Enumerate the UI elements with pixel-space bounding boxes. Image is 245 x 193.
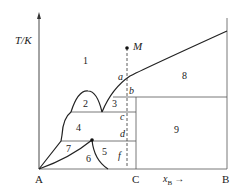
label-f: f: [118, 151, 121, 161]
region-6: 6: [86, 154, 91, 164]
region-8: 8: [182, 71, 187, 81]
region-1: 1: [83, 56, 88, 66]
liquidus-curve-left: [39, 112, 71, 169]
label-c-compound: C: [132, 174, 139, 185]
y-axis-label: T/K: [15, 35, 32, 46]
x-axis-label: xB→: [163, 174, 184, 187]
region-7: 7: [66, 144, 71, 154]
point-m-dot: [125, 46, 129, 50]
label-a-end: A: [35, 174, 43, 185]
region-2: 2: [83, 99, 88, 109]
region-9: 9: [174, 125, 179, 135]
region-5: 5: [102, 147, 107, 157]
label-c: c: [120, 112, 124, 122]
phase-diagram: [0, 0, 245, 193]
arrow-right-icon: →: [174, 173, 184, 184]
y-axis-arrow-icon: [37, 12, 41, 19]
label-b: b: [129, 86, 134, 96]
label-b-end: B: [222, 174, 229, 185]
region-4: 4: [76, 123, 81, 133]
label-m: M: [133, 41, 142, 52]
region-3: 3: [112, 99, 117, 109]
label-a: a: [118, 72, 123, 82]
label-d: d: [120, 129, 125, 139]
peritectic-point: [90, 138, 94, 142]
